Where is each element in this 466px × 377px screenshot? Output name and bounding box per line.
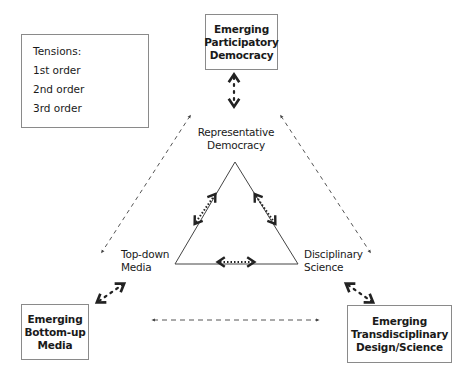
box-line: Design/Science <box>356 341 443 354</box>
box-emerging-transdisciplinary-design-science: Emerging Transdisciplinary Design/Scienc… <box>347 305 452 363</box>
box-emerging-participatory-democracy: Emerging Participatory Democracy <box>205 14 278 70</box>
label-line: Disciplinary <box>304 248 363 261</box>
label-line: Top-down <box>121 248 169 261</box>
label-line: Democracy <box>196 139 276 152</box>
box-line: Bottom-up <box>25 326 86 339</box>
box-line: Transdisciplinary <box>351 328 448 341</box>
third-order-tension-left <box>102 116 190 252</box>
legend-item-second-order: 2nd order <box>33 83 84 96</box>
label-line: Science <box>304 261 363 274</box>
triangle <box>175 162 298 264</box>
box-line: Participatory <box>204 36 278 49</box>
box-line: Emerging <box>28 313 83 326</box>
label-disciplinary-science: Disciplinary Science <box>304 248 363 274</box>
legend: Tensions: 1st order 2nd order 3rd order <box>21 34 149 128</box>
legend-item-third-order: 3rd order <box>33 102 82 115</box>
label-line: Media <box>121 261 169 274</box>
label-line: Representative <box>196 126 276 139</box>
second-order-tension-right <box>348 285 371 301</box>
box-emerging-bottom-up-media: Emerging Bottom-up Media <box>21 304 89 360</box>
legend-title: Tensions: <box>33 45 81 58</box>
label-top-down-media: Top-down Media <box>121 248 169 274</box>
third-order-tension-right <box>281 116 370 252</box>
second-order-tension-left <box>99 285 122 301</box>
box-line: Emerging <box>214 23 269 36</box>
box-line: Emerging <box>372 315 427 328</box>
label-representative-democracy: Representative Democracy <box>196 126 276 152</box>
box-line: Democracy <box>210 49 274 62</box>
first-order-tension-left <box>196 196 214 222</box>
first-order-tension-right <box>256 196 274 222</box>
legend-item-first-order: 1st order <box>33 64 81 77</box>
box-line: Media <box>38 339 73 352</box>
